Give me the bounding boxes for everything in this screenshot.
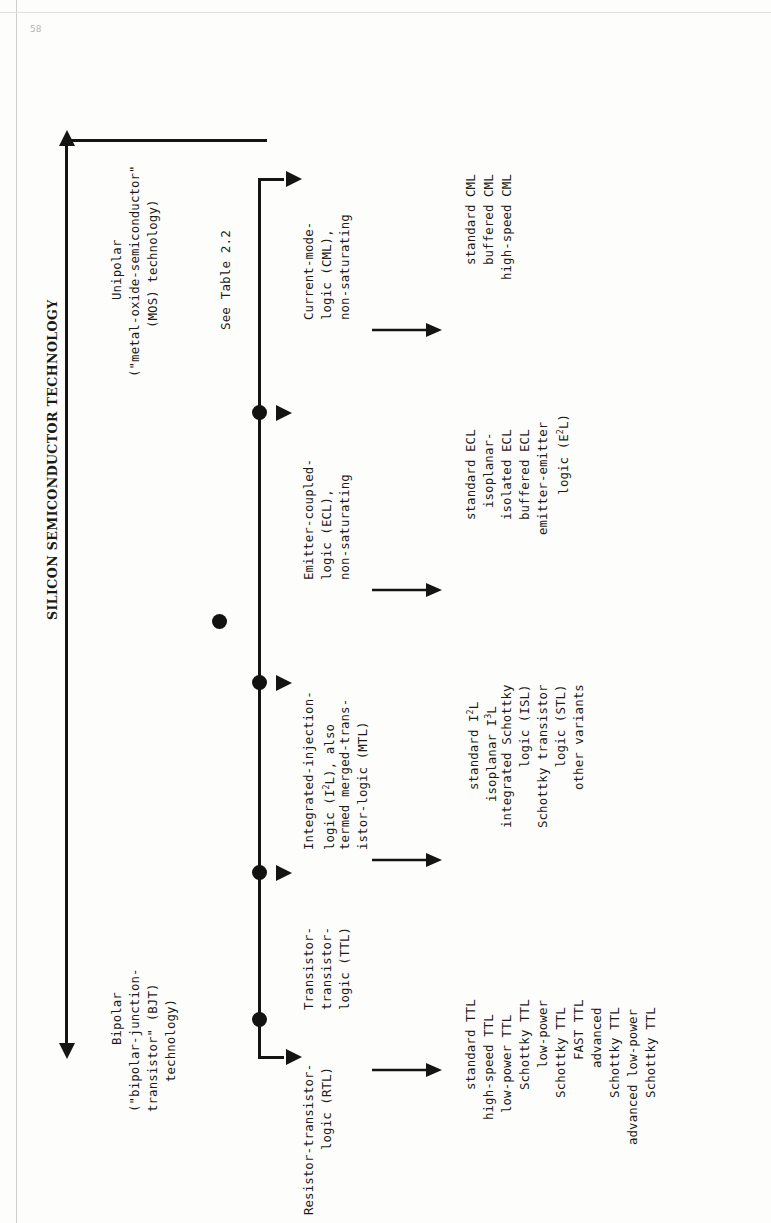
ttl-header-line2: transistor- <box>318 927 335 1010</box>
unipolar-label-line2: ("metal-oxide-semiconductor" <box>126 165 143 377</box>
ecl-variant-5: logic (E2L) <box>552 414 572 540</box>
arrow-to-bipolar <box>56 1035 78 1061</box>
page-edge-line <box>16 0 17 1223</box>
i2l-variant-2: integrated Schottky <box>498 684 515 828</box>
cml-variant-2: high-speed CML <box>498 174 515 280</box>
cml-variant-0: standard CML <box>462 174 479 265</box>
ecl-variant-4: emitter-emitter <box>534 422 551 535</box>
ttl-variant-2: low-power TTL <box>498 1015 515 1113</box>
bipolar-label-line3: transistor" (BJT) <box>144 983 161 1112</box>
ecl-header-line2: logic (ECL), <box>318 489 335 580</box>
ttl-variant-4: low-power <box>534 1000 551 1068</box>
page-edge-top-line <box>0 12 771 13</box>
i2l-variant-3: logic (ISL) <box>516 684 533 828</box>
node-ttl <box>252 865 267 880</box>
arrow-cml-variants <box>372 320 444 340</box>
figure-page: 58 SILICON SEMICONDUCTOR TECHNOLOGY Bipo… <box>0 0 771 1223</box>
arrow-ttl-variants <box>372 1060 444 1080</box>
bipolar-label-line1: Bipolar <box>108 992 125 1045</box>
i2l-header-line1: Integrated-injection- <box>300 691 317 850</box>
ecl-variant-0: standard ECL <box>462 429 479 520</box>
arrow-ecl-variants <box>372 580 444 600</box>
ttl-header-line1: Transistor- <box>300 927 317 1010</box>
unipolar-label-line1: Unipolar <box>108 240 125 300</box>
unipolar-label-line3: (MOS) technology) <box>144 199 161 328</box>
ttl-variant-8: Schottky TTL <box>606 1007 623 1113</box>
ecl-variant-3: buffered ECL <box>516 429 533 520</box>
ttl-variant-0: standard TTL <box>462 999 479 1090</box>
i2l-variant-6: other variants <box>570 684 587 790</box>
ecl-variant-1: isoplanar- <box>480 432 497 508</box>
cml-header-line1: Current-mode- <box>300 222 317 320</box>
see-table-note: See Table 2.2 <box>217 230 234 330</box>
toplevel-connector-line <box>64 139 267 142</box>
root-trunk-line <box>65 139 68 1044</box>
node-rtl <box>252 1012 267 1027</box>
node-i2l <box>252 675 267 690</box>
bipolar-stem-line <box>65 1040 68 1046</box>
root-node <box>212 614 227 629</box>
ttl-variant-6: FAST TTL <box>570 1000 587 1060</box>
rtl-header-line1: Resistor-transistor- <box>300 1064 317 1215</box>
cml-header-line3: non-saturating <box>336 214 353 320</box>
arrow-to-unipolar <box>56 128 78 154</box>
ttl-variant-7: advanced <box>588 1008 605 1068</box>
ttl-variant-5: Schottky TTL <box>552 1007 569 1113</box>
arrow-i2l-variants <box>372 850 444 870</box>
ecl-header-line3: non-saturating <box>336 474 353 580</box>
arrow-to-i2l <box>266 672 294 694</box>
bipolar-label-line4: technology) <box>162 999 179 1082</box>
i2l-header-line3: termed merged-trans- <box>336 699 353 850</box>
bipolar-label-line2: ("bipolar-junction- <box>126 968 143 1112</box>
ttl-variant-9: advanced low-power <box>624 1009 641 1145</box>
ttl-variant-1: high-speed TTL <box>480 1014 497 1120</box>
page-corner-mark: 58 <box>30 24 44 36</box>
ttl-header-line3: logic (TTL) <box>336 927 353 1010</box>
i2l-header-line4: istor-logic (MTL) <box>354 721 371 850</box>
ecl-header-line1: Emitter-coupled- <box>300 459 317 580</box>
ttl-variant-3: Schottky TTL <box>516 999 533 1090</box>
node-ecl <box>252 405 267 420</box>
ecl-variant-2: isolated ECL <box>498 429 515 520</box>
arrow-to-ttl <box>266 862 294 884</box>
rtl-header-line2: logic (RTL) <box>318 1067 335 1150</box>
cml-variant-1: buffered CML <box>480 174 497 265</box>
cml-header-line2: logic (CML), <box>318 229 335 320</box>
i2l-variant-4: Schottky transistor <box>534 684 551 828</box>
ttl-variant-10: Schottky TTL <box>642 1007 659 1113</box>
i2l-variant-5: logic (STL) <box>552 684 569 828</box>
arrow-to-ecl <box>266 402 294 424</box>
bipolar-spine-line <box>258 178 261 1058</box>
arrow-to-cml <box>280 168 304 190</box>
figure-title: SILICON SEMICONDUCTOR TECHNOLOGY <box>44 299 61 620</box>
